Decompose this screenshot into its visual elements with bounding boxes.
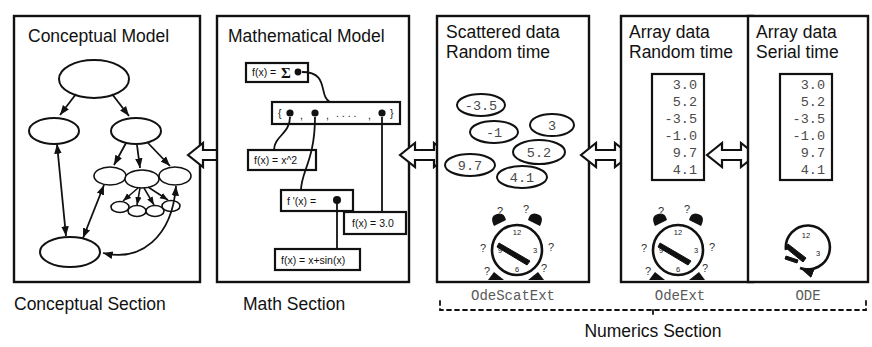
set-comma-2: , [326, 109, 329, 121]
section-label-odescatext: OdeScatExt [471, 288, 555, 304]
question-mark-1: ? [658, 205, 664, 217]
panel-scattered-title-line2: Random time [446, 42, 550, 62]
scatter-value-4: 5.2 [527, 146, 551, 161]
question-mark-6: ? [480, 242, 486, 254]
set-comma-3: , [368, 109, 371, 121]
concept-leaf-1 [111, 202, 129, 213]
question-mark-5: ? [645, 265, 651, 277]
math-sum-anchor-dot [295, 69, 302, 76]
math-sin-box: f(x) = x+sin(x) [275, 249, 360, 270]
set-elem-dot-3 [378, 109, 385, 116]
clock-numeral-6: 6 [676, 265, 680, 274]
clock-numeral-3: 3 [694, 246, 698, 255]
section-label-odeext: OdeExt [655, 288, 705, 304]
array-serial-value-6: 4.1 [801, 163, 825, 178]
concept-node-c3 [159, 167, 191, 185]
math-deriv-label: f '(x) = [287, 195, 316, 207]
concept-leaf-3 [146, 206, 164, 217]
panel-scattered: Scattered data Random time -3.5 -1 3 5.2… [437, 16, 589, 304]
panel-array-random-title-line2: Random time [629, 42, 733, 62]
array-random-value-4: -1.0 [665, 129, 697, 144]
panel-array-serial-title-line1: Array data [756, 22, 837, 42]
scatter-value-2: -1 [486, 126, 502, 141]
concept-node-right [111, 118, 161, 144]
panel-conceptual: Conceptual Model [14, 16, 200, 314]
concept-node-root [59, 60, 129, 98]
array-random-value-3: -3.5 [665, 112, 697, 127]
panel-mathematical: Mathematical Model f(x) = Σ { , , . . . … [217, 16, 409, 314]
question-mark-4: ? [702, 262, 708, 274]
concept-node-left [29, 118, 79, 144]
clock-numeral-6: 6 [515, 265, 519, 274]
section-label-math: Math Section [243, 294, 345, 314]
panel-conceptual-frame [14, 16, 200, 282]
numerics-section-label: Numerics Section [584, 321, 721, 341]
scatter-value-6: 4.1 [510, 171, 534, 186]
panel-array-serial: Array data Serial time 3.0 5.2 -3.5 -1.0… [748, 16, 868, 304]
set-elem-dot-2 [311, 109, 318, 116]
math-sin-label: f(x) = x+sin(x) [281, 254, 345, 266]
math-const-label: f(x) = 3.0 [352, 217, 394, 229]
clock-numeral-12: 12 [674, 228, 682, 237]
question-mark-1: ? [497, 205, 503, 217]
sigma-icon: Σ [281, 65, 291, 81]
section-label-conceptual: Conceptual Section [14, 294, 166, 314]
clock-numeral-12: 12 [802, 231, 810, 240]
math-sum-box: f(x) = Σ [246, 63, 308, 82]
array-serial-value-1: 3.0 [801, 78, 825, 93]
set-comma-1: , [300, 109, 303, 121]
array-box-serial: 3.0 5.2 -3.5 -1.0 9.7 4.1 [780, 74, 832, 180]
section-label-ode: ODE [795, 288, 820, 304]
set-close-brace: } [390, 107, 394, 119]
scatter-value-3: 3 [548, 119, 556, 134]
concept-leaf-2 [128, 206, 146, 217]
math-const-box: f(x) = 3.0 [344, 212, 406, 234]
scatter-value-1: -3.5 [465, 99, 497, 114]
math-set-box: { , , . . . . , } [272, 102, 400, 124]
panel-scattered-title-line1: Scattered data [446, 22, 560, 42]
question-mark-2: ? [523, 203, 529, 215]
array-box-random: 3.0 5.2 -3.5 -1.0 9.7 4.1 [652, 74, 704, 180]
array-random-value-5: 9.7 [673, 146, 697, 161]
panel-array-random-title-line1: Array data [629, 22, 710, 42]
concept-node-c1 [94, 167, 126, 185]
clock-numeral-12: 12 [513, 228, 521, 237]
scatter-value-5: 9.7 [458, 159, 482, 174]
panel-mathematical-title: Mathematical Model [228, 26, 385, 46]
question-mark-6: ? [641, 242, 647, 254]
math-sum-label: f(x) = [252, 66, 276, 78]
array-serial-value-5: 9.7 [801, 146, 825, 161]
panel-array-serial-title-line2: Serial time [756, 42, 839, 62]
concept-node-c2 [125, 170, 159, 188]
concept-node-bottom [40, 237, 100, 267]
question-mark-3: ? [709, 241, 715, 253]
math-xsq-label: f(x) = x^2 [254, 154, 297, 166]
math-deriv-box: f '(x) = [281, 190, 353, 211]
array-serial-value-2: 5.2 [801, 95, 825, 110]
array-random-value-6: 4.1 [673, 163, 697, 178]
set-ellipsis: . . . . [336, 107, 356, 119]
panel-conceptual-title: Conceptual Model [28, 26, 169, 46]
diagram-canvas: Conceptual Model [0, 0, 872, 347]
set-elem-dot-1 [286, 109, 293, 116]
array-serial-value-4: -1.0 [793, 129, 825, 144]
set-open-brace: { [278, 107, 282, 119]
array-random-value-1: 3.0 [673, 78, 697, 93]
array-serial-value-3: -3.5 [793, 112, 825, 127]
question-mark-5: ? [484, 265, 490, 277]
question-mark-4: ? [541, 262, 547, 274]
array-random-value-2: 5.2 [673, 95, 697, 110]
clock-numeral-3: 3 [816, 249, 820, 258]
question-mark-2: ? [684, 203, 690, 215]
question-mark-3: ? [548, 241, 554, 253]
clock-numeral-3: 3 [533, 246, 537, 255]
